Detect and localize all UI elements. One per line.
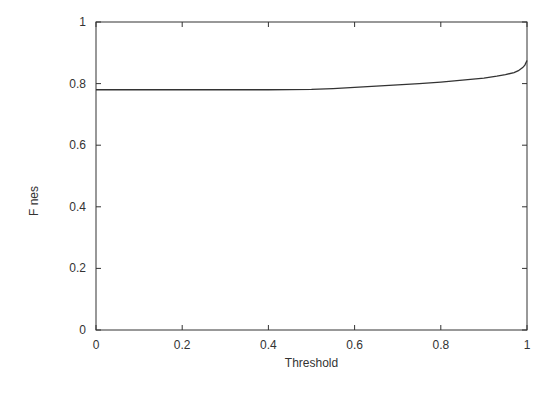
x-tick-label: 0.6 — [346, 338, 363, 352]
y-tick-label: 1 — [79, 15, 86, 29]
x-axis: 00.20.40.60.81 — [93, 22, 531, 352]
y-tick-label: 0 — [79, 323, 86, 337]
y-axis-label: F nes — [27, 186, 41, 216]
y-axis: 00.20.40.60.81 — [69, 15, 527, 337]
y-tick-label: 0.8 — [69, 77, 86, 91]
y-tick-label: 0.6 — [69, 138, 86, 152]
x-tick-label: 0.4 — [260, 338, 277, 352]
y-tick-label: 0.4 — [69, 200, 86, 214]
x-tick-label: 1 — [524, 338, 531, 352]
y-tick-label: 0.2 — [69, 261, 86, 275]
x-axis-label: Threshold — [285, 356, 338, 370]
x-tick-label: 0.8 — [432, 338, 449, 352]
series-line — [96, 61, 527, 90]
x-tick-label: 0.2 — [174, 338, 191, 352]
x-tick-label: 0 — [93, 338, 100, 352]
line-chart: 00.20.40.60.81 00.20.40.60.81 Threshold … — [0, 0, 554, 394]
plot-frame — [96, 22, 527, 330]
series-group — [96, 61, 527, 90]
